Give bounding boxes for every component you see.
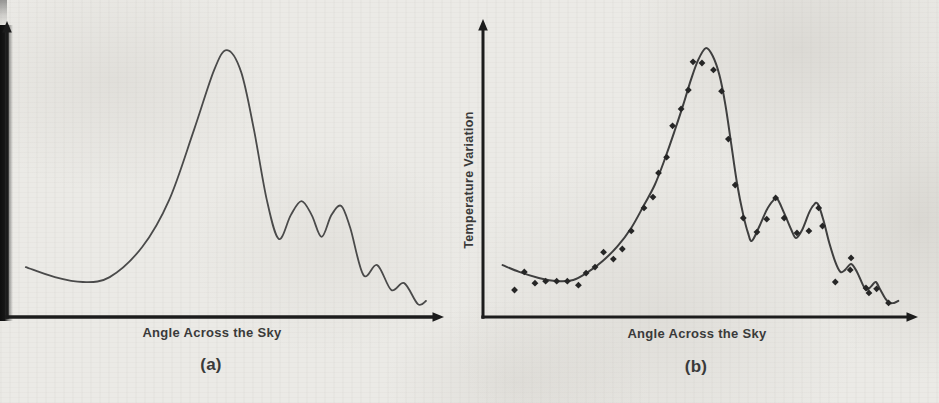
- data-point-diamond: [564, 278, 571, 285]
- y-axis-arrow-icon: [478, 19, 488, 31]
- data-point-diamond: [610, 256, 617, 263]
- data-point-diamond: [511, 287, 518, 294]
- x-axis-arrow-icon: [907, 312, 919, 322]
- plot-a: [0, 0, 460, 403]
- data-points: [511, 58, 892, 306]
- data-point-diamond: [805, 228, 812, 235]
- axes: [478, 19, 918, 322]
- spectrum-curve: [26, 50, 426, 305]
- data-point-diamond: [832, 279, 839, 286]
- axes: [2, 21, 444, 322]
- plot-b: [460, 0, 939, 403]
- data-point-diamond: [619, 246, 626, 253]
- y-axis-arrow-icon: [2, 21, 12, 33]
- data-point-diamond: [699, 60, 706, 67]
- spectrum-curve: [503, 48, 899, 303]
- y-axis-label-b: Temperature Variation: [462, 111, 476, 248]
- data-point-diamond: [710, 66, 717, 73]
- data-point-diamond: [600, 249, 607, 256]
- scanned-textbook-figure: Angle Across the Sky (a) Temperature Var…: [0, 0, 939, 403]
- caption-b: (b): [685, 357, 707, 377]
- data-point-diamond: [740, 215, 747, 222]
- data-point-diamond: [553, 278, 560, 285]
- data-point-diamond: [532, 280, 539, 287]
- data-point-diamond: [685, 87, 692, 94]
- x-axis-label-a: Angle Across the Sky: [142, 325, 281, 340]
- data-point-diamond: [848, 254, 855, 261]
- data-point-diamond: [754, 229, 761, 236]
- x-axis-arrow-icon: [433, 312, 445, 322]
- data-point-diamond: [575, 282, 582, 289]
- x-axis-label-b: Angle Across the Sky: [627, 326, 766, 341]
- caption-a: (a): [200, 355, 221, 375]
